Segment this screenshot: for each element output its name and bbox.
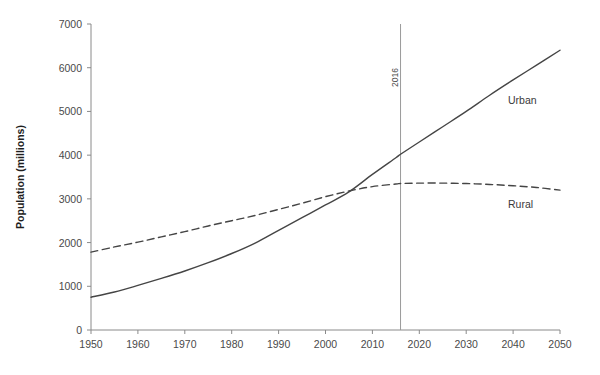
series-label-urban: Urban xyxy=(508,94,537,106)
series-line-rural xyxy=(91,183,560,252)
x-tick-label: 2050 xyxy=(548,338,572,350)
x-tick-label: 1990 xyxy=(267,338,291,350)
x-tick-label: 1950 xyxy=(79,338,103,350)
y-tick-label: 2000 xyxy=(59,237,83,249)
line-chart: 01000200030004000500060007000 1950196019… xyxy=(0,0,600,375)
series-label-rural: Rural xyxy=(508,198,533,210)
x-tick-label: 2030 xyxy=(455,338,479,350)
x-tick-label: 2010 xyxy=(361,338,385,350)
chart-axes xyxy=(91,24,560,330)
series-line-urban xyxy=(91,50,560,297)
x-tick-label: 2020 xyxy=(408,338,432,350)
y-tick-label: 7000 xyxy=(59,18,83,30)
x-axis-ticks: 1950196019701980199020002010202020302040… xyxy=(79,330,572,350)
y-tick-label: 6000 xyxy=(59,62,83,74)
marker-label-2016: 2016 xyxy=(390,68,400,87)
x-tick-label: 2040 xyxy=(501,338,525,350)
x-tick-label: 1970 xyxy=(173,338,197,350)
y-tick-label: 0 xyxy=(76,324,82,336)
y-tick-label: 4000 xyxy=(59,149,83,161)
y-axis-ticks: 01000200030004000500060007000 xyxy=(59,18,91,336)
y-tick-label: 1000 xyxy=(59,280,83,292)
y-axis-title: Population (millions) xyxy=(14,125,26,229)
x-tick-label: 2000 xyxy=(314,338,338,350)
x-tick-label: 1980 xyxy=(220,338,244,350)
x-tick-label: 1960 xyxy=(126,338,150,350)
annotation-2016: 2016 xyxy=(390,24,401,330)
y-tick-label: 5000 xyxy=(59,105,83,117)
chart-figure: 01000200030004000500060007000 1950196019… xyxy=(0,0,600,375)
y-tick-label: 3000 xyxy=(59,193,83,205)
